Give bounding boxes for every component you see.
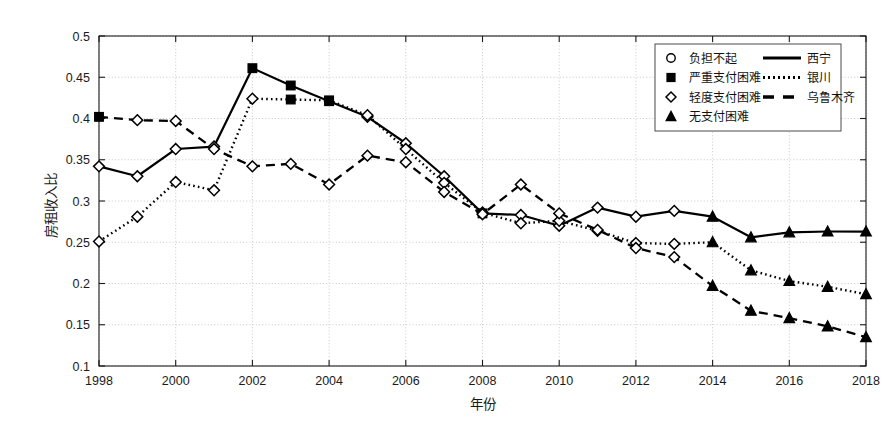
x-tick-label: 2010 — [545, 374, 573, 388]
legend-marker-label: 无支付困难 — [689, 110, 749, 124]
y-tick-label: 0.2 — [73, 277, 90, 291]
triangle-marker — [784, 313, 795, 323]
diamond-marker — [669, 206, 680, 217]
x-tick-label: 2006 — [392, 374, 420, 388]
triangle-marker — [861, 289, 872, 299]
square-marker — [325, 96, 334, 105]
legend-marker-label: 负担不起 — [689, 52, 737, 66]
square-marker — [248, 64, 257, 73]
y-tick-label: 0.1 — [73, 360, 90, 374]
square-marker — [286, 95, 295, 104]
legend-box: 负担不起严重支付困难轻度支付困难无支付困难西宁银川乌鲁木齐 — [655, 44, 855, 131]
x-tick-label: 2008 — [469, 374, 497, 388]
square-marker — [667, 74, 675, 82]
triangle-marker — [746, 305, 757, 315]
triangle-marker — [784, 275, 795, 285]
x-tick-label: 2016 — [775, 374, 803, 388]
legend-marker-label: 严重支付困难 — [689, 71, 761, 85]
diamond-marker — [132, 211, 143, 222]
diamond-marker — [94, 161, 105, 172]
legend-line-label: 西宁 — [807, 51, 831, 66]
x-tick-label: 2002 — [238, 374, 266, 388]
diamond-marker — [247, 93, 258, 104]
square-marker — [95, 113, 104, 122]
y-tick-label: 0.45 — [66, 71, 90, 85]
y-tick-label: 0.3 — [73, 195, 90, 209]
x-tick-label: 2000 — [162, 374, 190, 388]
chart-figure: 0.10.150.20.250.30.350.40.450.5199820002… — [0, 0, 888, 427]
y-tick-label: 0.35 — [66, 153, 90, 167]
series-2 — [95, 113, 872, 342]
y-tick-label: 0.5 — [73, 30, 90, 44]
diamond-marker — [247, 161, 258, 172]
diamond-marker — [554, 208, 565, 219]
diamond-marker — [400, 157, 411, 168]
x-tick-label: 2004 — [315, 374, 343, 388]
x-tick-label: 2014 — [699, 374, 727, 388]
circle-marker — [667, 54, 675, 62]
chart-canvas: 0.10.150.20.250.30.350.40.450.5199820002… — [0, 0, 888, 427]
x-tick-label: 1998 — [85, 374, 113, 388]
y-tick-label: 0.4 — [73, 112, 90, 126]
triangle-marker — [822, 281, 833, 291]
diamond-marker — [132, 115, 143, 126]
legend-line-label: 乌鲁木齐 — [807, 90, 855, 105]
diamond-marker — [592, 202, 603, 213]
x-tick-label: 2018 — [852, 374, 880, 388]
diamond-marker — [209, 185, 220, 196]
x-axis-title: 年份 — [470, 397, 497, 412]
square-marker — [286, 81, 295, 90]
diamond-marker — [324, 179, 335, 190]
diamond-marker — [631, 211, 642, 222]
diamond-marker — [669, 239, 680, 250]
triangle-marker — [746, 265, 757, 275]
x-tick-label: 2012 — [622, 374, 650, 388]
y-tick-label: 0.15 — [66, 318, 90, 332]
y-tick-label: 0.25 — [66, 236, 90, 250]
y-axis-title: 房租收入比 — [44, 173, 59, 238]
diamond-marker — [515, 218, 526, 229]
legend-marker-label: 轻度支付困难 — [689, 90, 761, 105]
diamond-marker — [592, 224, 603, 235]
legend-line-label: 银川 — [807, 71, 831, 85]
